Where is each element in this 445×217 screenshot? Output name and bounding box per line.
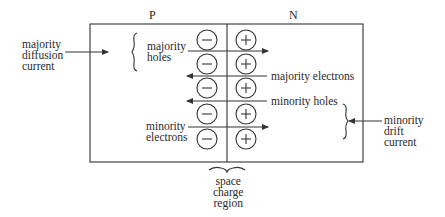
space-charge-region-label: space charge region — [213, 176, 243, 209]
minority-electrons-label: minority electrons — [146, 121, 188, 143]
majority-diffusion-current-label: majority diffusion current — [22, 39, 63, 72]
majority-electrons-label: majority electrons — [271, 71, 354, 82]
minority-brace — [343, 104, 348, 139]
majority-brace — [132, 33, 137, 71]
majority-holes-label: majority holes — [147, 41, 186, 63]
space-charge-brace — [209, 167, 245, 172]
positive-ion-column — [236, 30, 256, 149]
pn-junction-diagram: P N majority diffusion current majority … — [0, 0, 445, 217]
n-region-label: N — [289, 10, 298, 21]
minority-drift-current-label: minority drift current — [384, 115, 424, 148]
p-region-label: P — [149, 10, 156, 21]
negative-ion-column — [197, 30, 217, 149]
minority-holes-label: minority holes — [271, 96, 338, 107]
